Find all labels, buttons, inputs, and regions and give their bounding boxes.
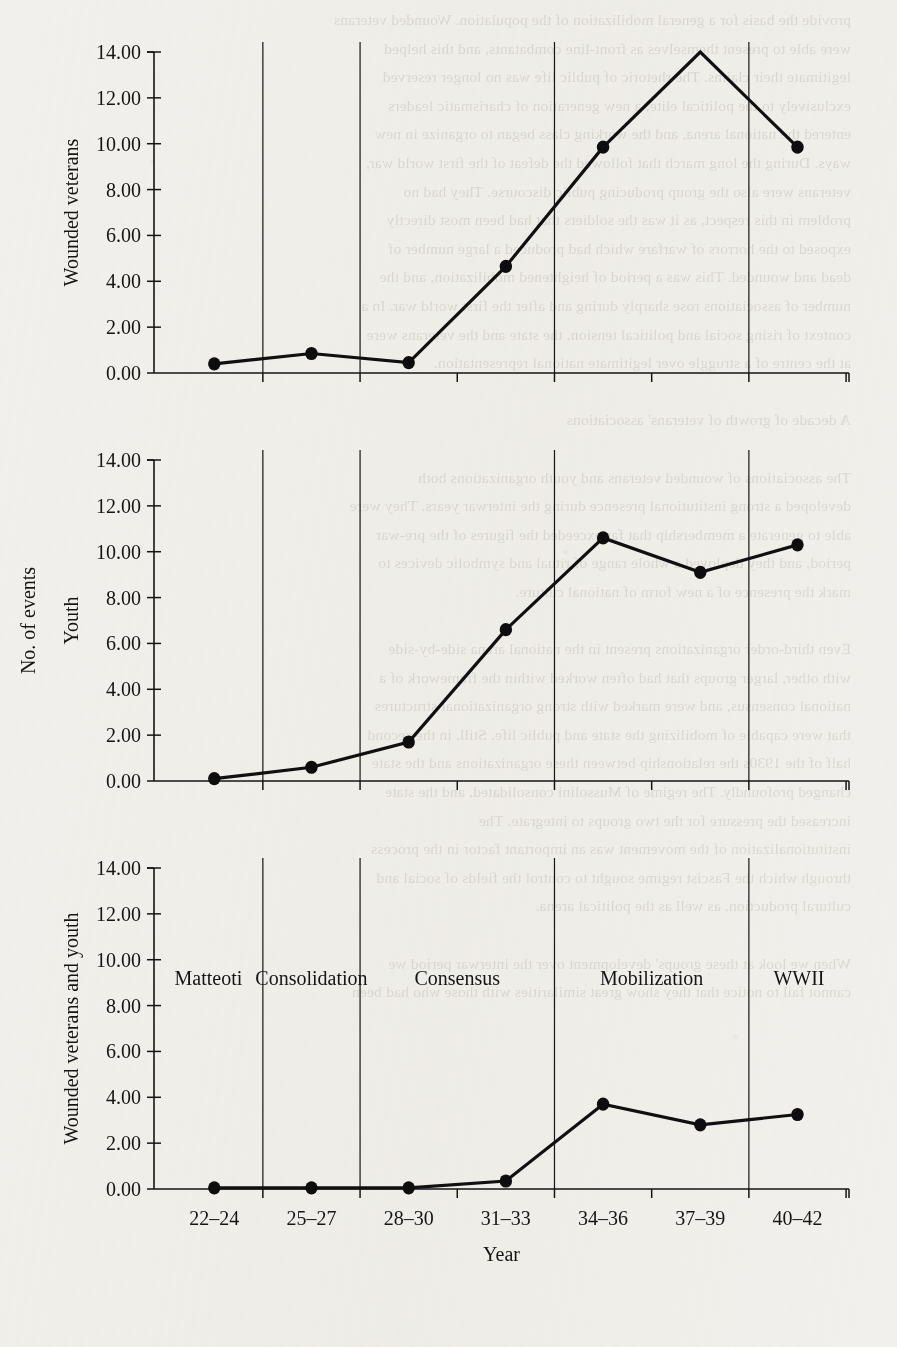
data-point: [305, 347, 317, 360]
y-tick-label: 4.00: [106, 678, 141, 700]
x-tick-label: 34–36: [578, 1207, 628, 1229]
y-tick-label: 10.00: [96, 541, 141, 563]
y-tick-label: 12.00: [96, 87, 141, 109]
data-point: [791, 141, 803, 154]
chart-panel-youth: 0.002.004.006.008.0010.0012.0014.00Youth…: [0, 408, 897, 816]
y-axis-outer-title: No. of events: [17, 567, 39, 674]
data-point: [208, 1181, 220, 1194]
data-point: [694, 1118, 706, 1131]
chart-panel-wounded-veterans-and-youth: 0.002.004.006.008.0010.0012.0014.00Matte…: [0, 816, 897, 1347]
y-tick-label: 6.00: [106, 224, 141, 246]
y-tick-label: 0.00: [106, 362, 141, 384]
x-tick-label: 40–42: [772, 1207, 822, 1229]
x-tick-label: 22–24: [189, 1207, 239, 1229]
x-tick-label: 28–30: [384, 1207, 434, 1229]
data-point: [597, 1098, 609, 1111]
data-point: [208, 357, 220, 370]
data-point: [305, 761, 317, 774]
y-tick-label: 0.00: [106, 1178, 141, 1200]
data-point: [305, 1181, 317, 1194]
y-tick-label: 10.00: [96, 133, 141, 155]
y-tick-label: 2.00: [106, 1132, 141, 1154]
y-tick-label: 14.00: [96, 857, 141, 879]
y-tick-label: 12.00: [96, 495, 141, 517]
data-point: [597, 531, 609, 544]
data-line: [214, 538, 797, 779]
y-tick-label: 0.00: [106, 770, 141, 792]
data-point: [402, 735, 414, 748]
data-point: [500, 1174, 512, 1187]
y-tick-label: 2.00: [106, 724, 141, 746]
data-point: [402, 356, 414, 369]
x-tick-label: 37–39: [675, 1207, 725, 1229]
y-axis-title: Youth: [60, 597, 82, 645]
data-point: [500, 623, 512, 636]
data-point: [208, 772, 220, 785]
y-tick-label: 14.00: [96, 41, 141, 63]
y-tick-label: 4.00: [106, 270, 141, 292]
period-label-consolidation: Consolidation: [255, 967, 367, 989]
y-tick-label: 6.00: [106, 632, 141, 654]
y-tick-label: 12.00: [96, 903, 141, 925]
x-tick-label: 31–33: [481, 1207, 531, 1229]
period-label-wwii: WWII: [773, 967, 824, 989]
chart-wounded-veterans-and-youth: 0.002.004.006.008.0010.0012.0014.00Matte…: [0, 816, 897, 1347]
chart-panel-wounded-veterans: 0.002.004.006.008.0010.0012.0014.00Wound…: [0, 0, 897, 408]
data-point: [402, 1181, 414, 1194]
data-point: [791, 1108, 803, 1121]
period-label-consensus: Consensus: [414, 967, 500, 989]
data-point: [694, 566, 706, 579]
y-tick-label: 2.00: [106, 316, 141, 338]
y-tick-label: 4.00: [106, 1086, 141, 1108]
data-point: [597, 141, 609, 154]
chart-wounded-veterans: 0.002.004.006.008.0010.0012.0014.00Wound…: [0, 0, 897, 408]
y-tick-label: 8.00: [106, 179, 141, 201]
y-tick-label: 14.00: [96, 449, 141, 471]
chart-youth: 0.002.004.006.008.0010.0012.0014.00Youth…: [0, 408, 897, 816]
data-point: [791, 538, 803, 551]
figure-three-stacked-line-charts: 0.002.004.006.008.0010.0012.0014.00Wound…: [0, 0, 897, 1347]
y-axis-title: Wounded veterans and youth: [60, 912, 83, 1144]
data-line: [214, 52, 797, 364]
x-tick-label: 25–27: [286, 1207, 336, 1229]
y-tick-label: 6.00: [106, 1040, 141, 1062]
x-axis-title: Year: [483, 1243, 520, 1265]
y-tick-label: 8.00: [106, 587, 141, 609]
period-label-mobilization: Mobilization: [600, 967, 703, 989]
data-point: [500, 260, 512, 273]
y-axis-title: Wounded veterans: [60, 138, 82, 286]
period-label-matteoti: Matteoti: [175, 967, 243, 989]
y-tick-label: 10.00: [96, 949, 141, 971]
y-tick-label: 8.00: [106, 995, 141, 1017]
